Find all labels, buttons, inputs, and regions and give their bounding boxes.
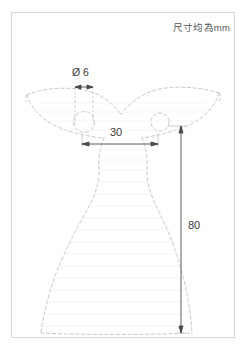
drawing-sheet: 尺寸均為mm Ø 6 30 80 [0, 0, 246, 350]
center-notch [120, 112, 123, 114]
dimension-label-hole-diameter: Ø 6 [72, 66, 89, 78]
right-wing-upper-edge [123, 87, 219, 112]
right-wing-tip [219, 93, 221, 101]
body-base-edge [41, 333, 192, 335]
technical-drawing-canvas [0, 0, 246, 350]
part-shading-group [36, 103, 210, 326]
hole-left [74, 112, 95, 133]
dimension-diameter-group [75, 85, 93, 124]
left-wing-tip [26, 95, 28, 102]
width-arrow-left [82, 142, 89, 146]
diameter-arrow-right [87, 85, 93, 89]
units-note: 尺寸均為mm [173, 20, 230, 34]
left-wing-upper-edge [27, 88, 120, 113]
part-outline-group [26, 87, 221, 334]
height-arrow-bottom [179, 326, 183, 333]
width-arrow-right [151, 142, 158, 146]
body-left-silhouette [41, 138, 104, 333]
height-arrow-top [179, 126, 183, 133]
dimension-label-overall-height: 80 [188, 219, 200, 231]
body-right-silhouette [142, 138, 192, 333]
hole-right [151, 113, 169, 131]
dimension-label-neck-width: 30 [110, 126, 122, 138]
